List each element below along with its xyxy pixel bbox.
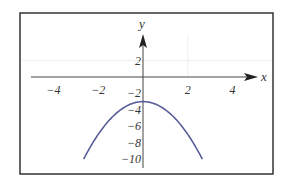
y-tick-label: −10: [121, 152, 141, 166]
x-axis: x: [31, 69, 267, 84]
grid: [22, 36, 271, 76]
y-tick-label: −6: [127, 119, 141, 133]
x-axis-label: x: [260, 69, 267, 84]
y-tick-label: 2: [135, 54, 141, 68]
x-tick-label: −4: [46, 83, 60, 97]
y-axis-label: y: [137, 16, 145, 31]
y-tick-labels: 2−2−4−6−8−10: [121, 54, 141, 166]
x-tick-label: 4: [230, 83, 236, 97]
y-tick-label: −8: [127, 136, 141, 150]
x-tick-label: −2: [91, 83, 105, 97]
y-tick-label: −2: [127, 86, 141, 100]
parabola-chart: x y −4−224 2−2−4−6−8−10: [0, 0, 288, 185]
x-tick-label: 2: [185, 83, 191, 97]
